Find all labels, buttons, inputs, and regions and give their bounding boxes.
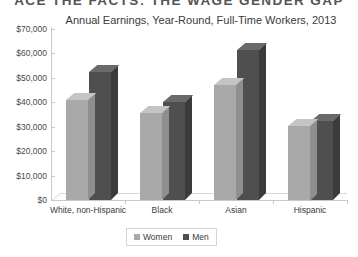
plot-area bbox=[51, 29, 347, 200]
bar-front-face bbox=[288, 126, 310, 201]
bar-side-face bbox=[162, 106, 169, 200]
x-axis-category-label: Asian bbox=[225, 205, 246, 215]
y-axis-tick-mark bbox=[51, 176, 55, 177]
y-axis-tick-label: $10,000 bbox=[16, 171, 47, 181]
bar-women bbox=[140, 113, 162, 200]
bar-women bbox=[214, 85, 236, 200]
y-axis-tick-mark bbox=[51, 127, 55, 128]
x-axis-separator bbox=[199, 200, 200, 204]
bar-side-face bbox=[111, 65, 118, 200]
bar-side-face bbox=[259, 43, 266, 200]
y-axis-tick-label: $30,000 bbox=[16, 122, 47, 132]
legend-swatch-men bbox=[183, 234, 189, 240]
x-axis-separator bbox=[273, 200, 274, 204]
chart-title: Annual Earnings, Year-Round, Full-Time W… bbox=[55, 14, 347, 26]
bar-front-face bbox=[66, 100, 88, 200]
x-axis-category-label: Black bbox=[152, 205, 173, 215]
y-axis-tick-mark bbox=[51, 29, 55, 30]
bar-group bbox=[288, 29, 333, 200]
legend-swatch-women bbox=[134, 234, 140, 240]
y-axis-tick-mark bbox=[51, 151, 55, 152]
bar-women bbox=[288, 126, 310, 201]
y-axis-tick-label: $50,000 bbox=[16, 73, 47, 83]
x-axis-separator bbox=[347, 200, 348, 204]
x-axis-category-label: White, non-Hispanic bbox=[50, 205, 126, 215]
chart-legend: Women Men bbox=[126, 228, 217, 246]
bar-side-face bbox=[185, 95, 192, 200]
y-axis-tick-label: $60,000 bbox=[16, 48, 47, 58]
y-axis-tick-label: $40,000 bbox=[16, 97, 47, 107]
bar-side-face bbox=[333, 114, 340, 200]
legend-label-women: Women bbox=[143, 232, 172, 242]
legend-item-men: Men bbox=[183, 232, 209, 242]
x-axis-category-label: Hispanic bbox=[294, 205, 327, 215]
y-axis-tick-mark bbox=[51, 102, 55, 103]
bar-chart: Annual Earnings, Year-Round, Full-Time W… bbox=[0, 0, 358, 257]
legend-item-women: Women bbox=[134, 232, 172, 242]
y-axis-tick-label: $20,000 bbox=[16, 146, 47, 156]
y-axis-tick-mark bbox=[51, 200, 55, 201]
bar-women bbox=[66, 100, 88, 200]
y-axis-tick-mark bbox=[51, 53, 55, 54]
y-axis-tick-mark bbox=[51, 78, 55, 79]
bar-group bbox=[214, 29, 259, 200]
bar-group bbox=[140, 29, 185, 200]
y-axis-tick-label: $70,000 bbox=[16, 24, 47, 34]
bar-side-face bbox=[310, 119, 317, 201]
legend-label-men: Men bbox=[192, 232, 209, 242]
y-axis-tick-label: $0 bbox=[38, 195, 47, 205]
bar-front-face bbox=[214, 85, 236, 200]
bar-front-face bbox=[140, 113, 162, 200]
bar-side-face bbox=[88, 93, 95, 200]
bar-side-face bbox=[236, 78, 243, 200]
bar-group bbox=[66, 29, 111, 200]
x-axis-separator bbox=[125, 200, 126, 204]
y-axis-labels: $0$10,000$20,000$30,000$40,000$50,000$60… bbox=[0, 0, 47, 257]
